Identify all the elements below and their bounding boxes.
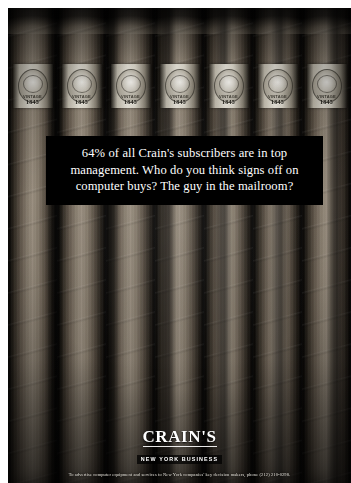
cigar-head bbox=[106, 8, 155, 34]
cigar bbox=[302, 8, 351, 483]
cigar bbox=[106, 8, 155, 483]
advertisement-page: VINTAGE 1845 VINTAGE 1845 VINTAGE 1845 bbox=[0, 0, 351, 483]
cigar-head bbox=[8, 8, 57, 34]
cigar bbox=[8, 8, 57, 483]
headline-panel: 64% of all Crain's subscribers are in to… bbox=[46, 136, 323, 205]
cigar-photograph: VINTAGE 1845 VINTAGE 1845 VINTAGE 1845 bbox=[8, 8, 351, 483]
cigar bbox=[57, 8, 106, 483]
fine-print-line: To advertise computer equipment and serv… bbox=[8, 472, 351, 477]
cigar-head bbox=[302, 8, 351, 34]
cigar-head bbox=[253, 8, 302, 34]
cigar-row bbox=[8, 8, 351, 483]
cigar bbox=[253, 8, 302, 483]
cigar-head bbox=[57, 8, 106, 34]
cigar bbox=[204, 8, 253, 483]
cigar bbox=[155, 8, 204, 483]
cigar-head bbox=[204, 8, 253, 34]
cigar-head bbox=[155, 8, 204, 34]
